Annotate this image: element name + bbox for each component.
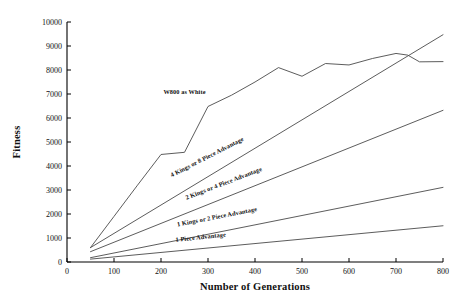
series-line-3 — [91, 187, 444, 257]
series-line-1 — [91, 35, 444, 248]
series-label-0: W800 as White — [163, 88, 205, 95]
fitness-vs-generations-chart: 0100020003000400050006000700080009000100… — [0, 0, 453, 304]
y-tick-label: 5000 — [46, 138, 62, 147]
y-tick-label: 10000 — [42, 18, 62, 27]
x-tick-label: 600 — [343, 267, 355, 276]
series-line-0 — [91, 53, 444, 247]
series-label-4: 1 Piece Advantage — [175, 231, 226, 243]
y-tick-label: 7000 — [46, 90, 62, 99]
x-tick-label: 400 — [249, 267, 261, 276]
y-axis-title: Fitness — [11, 126, 22, 159]
x-tick-label: 300 — [202, 267, 214, 276]
x-tick-label: 0 — [65, 267, 69, 276]
y-tick-label: 4000 — [46, 162, 62, 171]
x-tick-label: 500 — [296, 267, 308, 276]
x-tick-label: 700 — [390, 267, 402, 276]
x-tick-label: 200 — [155, 267, 167, 276]
x-tick-label: 800 — [437, 267, 449, 276]
series-label-3: 1 Kings or 2 Piece Advantage — [176, 205, 257, 227]
series-label-2: 2 Kings or 4 Piece Advantage — [184, 165, 262, 201]
y-tick-label: 2000 — [46, 210, 62, 219]
y-tick-label: 1000 — [46, 234, 62, 243]
y-tick-label: 8000 — [46, 66, 62, 75]
y-tick-label: 3000 — [46, 186, 62, 195]
y-tick-label: 0 — [58, 258, 62, 267]
x-axis-title: Number of Generations — [200, 281, 310, 292]
y-tick-label: 9000 — [46, 42, 62, 51]
x-tick-label: 100 — [108, 267, 120, 276]
chart-canvas: 0100020003000400050006000700080009000100… — [0, 0, 453, 304]
series-label-1: 4 Kings or 8 Piece Advantage — [169, 135, 245, 178]
y-tick-label: 6000 — [46, 114, 62, 123]
